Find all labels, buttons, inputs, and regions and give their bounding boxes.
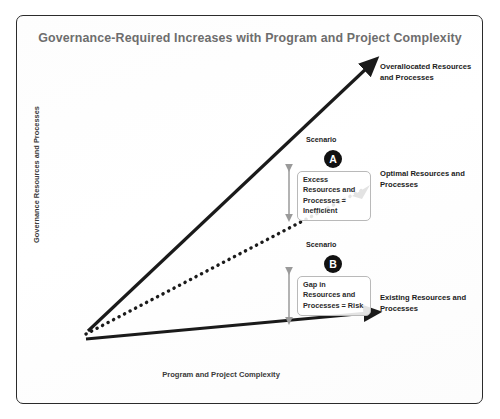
scenario-b-badge: B <box>324 255 342 273</box>
x-axis-label: Program and Project Complexity <box>76 370 366 379</box>
series-existing-line <box>86 313 368 339</box>
scenario-b-callout: Gap in Resources and Processes = Risk <box>297 276 371 316</box>
scenario-a-tag: Scenario <box>306 135 336 144</box>
scenario-b-tag: Scenario <box>306 240 336 249</box>
scenario-a-callout: Excess Resources and Processes = Ineffic… <box>297 171 371 221</box>
series-label-overallocated: Overallocated Resources and Processes <box>380 61 472 83</box>
series-label-optimal: Optimal Resources and Processes <box>380 168 472 190</box>
scenario-a-badge: A <box>324 150 342 168</box>
figure-root: Governance-Required Increases with Progr… <box>0 0 500 419</box>
y-axis-label: Governance Resources and Processes <box>32 95 41 255</box>
series-label-existing: Existing Resources and Processes <box>380 292 472 314</box>
